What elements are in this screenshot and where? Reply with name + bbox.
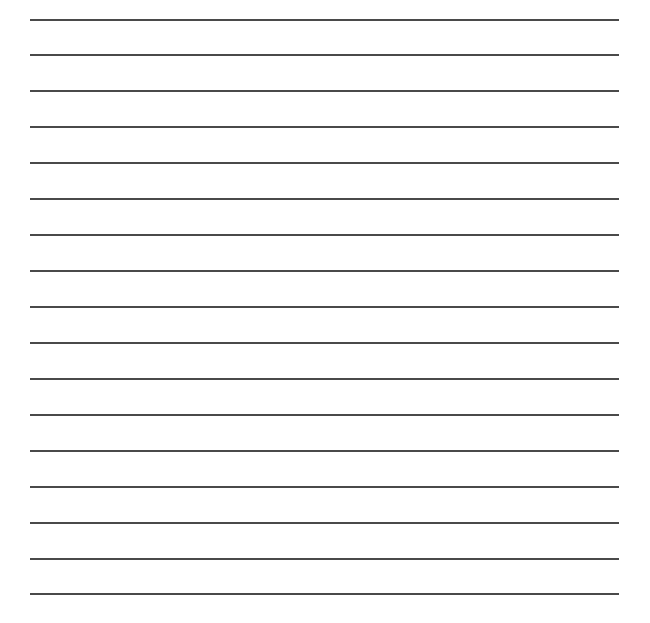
ruled-line [30, 522, 619, 524]
ruled-line [30, 270, 619, 272]
ruled-line [30, 234, 619, 236]
ruled-line [30, 54, 619, 56]
ruled-line [30, 198, 619, 200]
ruled-line [30, 342, 619, 344]
ruled-line [30, 306, 619, 308]
ruled-line [30, 126, 619, 128]
ruled-line [30, 486, 619, 488]
lined-paper-sheet [0, 0, 650, 623]
ruled-line [30, 19, 619, 21]
ruled-line [30, 162, 619, 164]
ruled-line [30, 593, 619, 595]
ruled-line [30, 558, 619, 560]
ruled-line [30, 450, 619, 452]
ruled-line [30, 414, 619, 416]
ruled-line [30, 378, 619, 380]
ruled-line [30, 90, 619, 92]
